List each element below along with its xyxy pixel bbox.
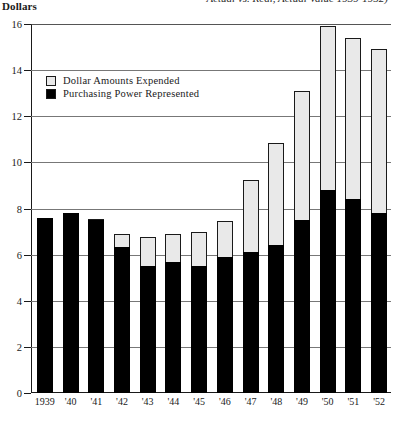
legend-swatch-dotted-icon xyxy=(46,76,56,86)
bar-49 xyxy=(294,91,310,393)
y-axis-tick xyxy=(24,116,31,117)
bar-segment-purchasing-power xyxy=(140,266,156,393)
bar-segment-purchasing-power xyxy=(63,213,79,393)
bar-1939 xyxy=(37,218,53,393)
bar-segment-purchasing-power xyxy=(268,245,284,393)
bar-51 xyxy=(345,38,361,393)
x-axis-line xyxy=(31,392,391,393)
y-axis-tick xyxy=(24,347,31,348)
x-axis-label-52: '52 xyxy=(373,396,385,407)
bar-52 xyxy=(371,49,387,393)
x-axis-label-51: '51 xyxy=(348,396,360,407)
y-axis-tick-label: 14 xyxy=(12,65,23,76)
y-axis-label: Dollars xyxy=(2,0,37,12)
y-axis-tick-label: 10 xyxy=(12,157,23,168)
chart-title-clipped: Actual vs. Real, Actual Value 1939-1952) xyxy=(0,0,394,10)
x-axis-label-45: '45 xyxy=(193,396,205,407)
y-axis-tick xyxy=(24,301,31,302)
y-axis-tick-label: 8 xyxy=(17,203,22,214)
gridline xyxy=(31,301,391,302)
y-axis-tick xyxy=(24,393,31,394)
y-axis-tick xyxy=(24,24,31,25)
y-axis-tick xyxy=(24,255,31,256)
legend-item-purchasing-power: Purchasing Power Represented xyxy=(46,87,199,100)
legend-label-purchasing-power: Purchasing Power Represented xyxy=(63,88,199,99)
x-axis-label-1939: 1939 xyxy=(35,396,55,407)
gridline xyxy=(31,162,391,163)
bar-segment-purchasing-power xyxy=(217,257,233,393)
bar-46 xyxy=(217,221,233,393)
y-axis-tick-label: 4 xyxy=(17,295,22,306)
bar-segment-purchasing-power xyxy=(243,252,259,393)
legend-label-expended: Dollar Amounts Expended xyxy=(63,75,180,86)
x-axis-label-47: '47 xyxy=(245,396,257,407)
x-axis-label-48: '48 xyxy=(270,396,282,407)
bar-47 xyxy=(243,180,259,393)
chart-legend: Dollar Amounts Expended Purchasing Power… xyxy=(46,74,199,100)
y-axis-tick-label: 16 xyxy=(12,19,23,30)
x-axis-label-43: '43 xyxy=(142,396,154,407)
gridline xyxy=(31,347,391,348)
bar-segment-purchasing-power xyxy=(371,213,387,393)
x-axis-label-46: '46 xyxy=(219,396,231,407)
y-axis-tick xyxy=(24,162,31,163)
legend-item-expended: Dollar Amounts Expended xyxy=(46,74,199,87)
bar-42 xyxy=(114,234,130,393)
bar-50 xyxy=(320,26,336,393)
x-axis-label-50: '50 xyxy=(322,396,334,407)
y-axis-tick xyxy=(24,70,31,71)
bar-48 xyxy=(268,143,284,393)
y-axis-tick xyxy=(24,209,31,210)
bar-41 xyxy=(88,219,104,393)
x-axis-label-41: '41 xyxy=(90,396,102,407)
y-axis-tick-label: 0 xyxy=(17,388,22,399)
y-axis-tick-label: 12 xyxy=(12,111,23,122)
bar-40 xyxy=(63,213,79,393)
x-axis-label-42: '42 xyxy=(116,396,128,407)
gridline xyxy=(31,116,391,117)
bar-segment-purchasing-power xyxy=(88,220,104,393)
x-axis-label-40: '40 xyxy=(65,396,77,407)
bar-segment-purchasing-power xyxy=(165,262,181,393)
bar-segment-purchasing-power xyxy=(320,190,336,393)
legend-swatch-solid-icon xyxy=(46,89,56,99)
gridline xyxy=(31,255,391,256)
bar-segment-purchasing-power xyxy=(114,247,130,393)
y-axis-tick-label: 2 xyxy=(17,341,22,352)
y-axis-tick-label: 6 xyxy=(17,249,22,260)
gridline xyxy=(31,70,391,71)
x-axis-label-49: '49 xyxy=(296,396,308,407)
chart-title-text: Actual vs. Real, Actual Value 1939-1952) xyxy=(206,0,388,4)
bar-segment-purchasing-power xyxy=(191,266,207,393)
bar-segment-purchasing-power xyxy=(294,220,310,393)
bar-segment-purchasing-power xyxy=(37,218,53,393)
gridline xyxy=(31,209,391,210)
bar-43 xyxy=(140,237,156,393)
bar-44 xyxy=(165,234,181,393)
bar-45 xyxy=(191,232,207,393)
x-axis-label-44: '44 xyxy=(168,396,180,407)
bar-segment-purchasing-power xyxy=(345,199,361,393)
